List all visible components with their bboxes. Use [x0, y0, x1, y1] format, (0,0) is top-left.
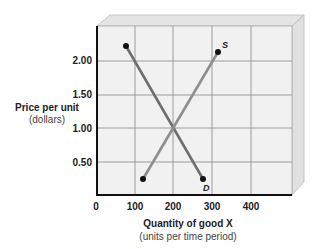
demand-label: D: [203, 183, 210, 193]
x-tick-200: 200: [158, 201, 188, 212]
supply-point-low: [140, 176, 146, 182]
supply-point-high: [215, 49, 221, 55]
demand-point-high: [123, 43, 129, 49]
y-axis-title: Price per unit: [7, 102, 87, 113]
x-tick-300: 300: [197, 201, 227, 212]
x-axis-title: Quantity of good X: [88, 218, 288, 229]
demand-point-low: [200, 176, 206, 182]
y-axis-subtitle: (dollars): [7, 114, 87, 125]
plot-area: [97, 26, 292, 195]
x-tick-0: 0: [81, 201, 111, 212]
x-tick-100: 100: [120, 201, 150, 212]
supply-label: S: [222, 40, 228, 50]
y-tick-2-00: 2.00: [52, 55, 92, 66]
y-tick-0-50: 0.50: [52, 157, 92, 168]
y-tick-1-50: 1.50: [52, 89, 92, 100]
box-right-face: [292, 15, 304, 195]
x-axis-subtitle: (units per time period): [88, 231, 288, 242]
box-top-face: [97, 15, 304, 26]
x-tick-400: 400: [236, 201, 266, 212]
